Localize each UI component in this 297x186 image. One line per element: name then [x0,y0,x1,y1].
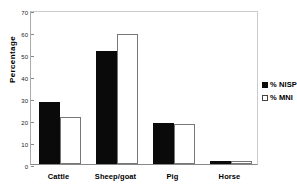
y-axis-tick-label: 20 [21,120,31,126]
y-axis-tick: 60 [21,25,31,43]
y-axis-tick-label: 10 [21,142,31,148]
legend-item-label: % NISP [270,80,297,89]
plot-area: 010203040506070 [30,11,258,165]
bar-mni[interactable] [231,161,252,164]
y-axis-tick: 40 [21,69,31,87]
x-axis-label: Cattle [48,172,69,181]
hollow-square-icon [262,95,268,101]
bar-nisp[interactable] [210,161,231,164]
y-axis-tick-label: 40 [21,76,31,82]
filled-square-icon [262,82,268,88]
bar-mni[interactable] [174,124,195,164]
bar-nisp[interactable] [153,123,174,164]
y-axis-tick: 20 [21,113,31,131]
bar-chart: Percentage 010203040506070 CattleSheep/g… [0,0,297,186]
bar-group [88,12,145,164]
chart-legend: % NISP% MNI [262,80,297,102]
bar-nisp[interactable] [39,102,60,164]
y-axis-tick-label: 30 [21,98,31,104]
bar-nisp[interactable] [96,51,117,164]
y-axis-tick: 70 [21,3,31,21]
legend-item[interactable]: % NISP [262,80,297,89]
y-axis-tick-label: 70 [21,10,31,16]
y-axis-tick-label: 50 [21,54,31,60]
y-axis-title: Percentage [8,18,17,102]
y-axis-tick: 50 [21,47,31,65]
bar-mni[interactable] [60,117,81,164]
legend-item-label: % MNI [270,93,293,102]
x-axis-label: Horse [219,172,241,181]
y-axis-tick-label: 60 [21,32,31,38]
bar-group [31,12,88,164]
bar-group [145,12,202,164]
bar-group [202,12,259,164]
bar-mni[interactable] [117,34,138,164]
y-axis-tick: 10 [21,135,31,153]
y-axis-tick-mark [31,166,34,167]
x-axis-label: Pig [167,172,179,181]
legend-item[interactable]: % MNI [262,93,297,102]
y-axis-tick: 30 [21,91,31,109]
x-axis-label: Sheep/goat [95,172,136,181]
